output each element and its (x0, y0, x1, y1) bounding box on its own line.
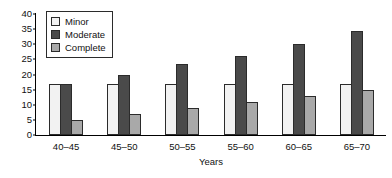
y-axis-tick-label: 15 (21, 85, 32, 95)
legend-swatch-icon (51, 43, 60, 52)
y-axis-tick-mark (33, 59, 36, 60)
x-axis-tick-label: 60–65 (286, 142, 312, 152)
y-axis-tick-label: 40 (21, 9, 32, 19)
y-axis-tick-label: 35 (21, 24, 32, 34)
x-axis-tick-label: 65–70 (344, 142, 370, 152)
y-axis-tick-mark (33, 119, 36, 120)
x-axis-tick-label: 40–45 (53, 142, 79, 152)
x-axis-tick-label: 55–60 (227, 142, 253, 152)
chart-legend: MinorModerateComplete (46, 11, 113, 58)
bar-complete (246, 102, 258, 135)
y-axis-tick-mark (33, 29, 36, 30)
y-axis-tick-mark (33, 104, 36, 105)
y-axis-tick-label: 20 (21, 70, 32, 80)
y-axis-tick-mark (33, 89, 36, 90)
legend-label: Complete (65, 43, 106, 53)
y-axis-tick-label: 10 (21, 100, 32, 110)
y-axis-tick-label: 30 (21, 40, 32, 50)
y-axis-tick-mark (33, 74, 36, 75)
bar-complete (362, 90, 374, 135)
legend-label: Moderate (65, 30, 105, 40)
y-axis-tick-mark (33, 135, 36, 136)
y-axis-tick-label: 25 (21, 55, 32, 65)
x-axis-title: Years (36, 157, 386, 167)
y-axis-tick-label: 0 (27, 130, 32, 140)
y-axis-tick-mark (33, 44, 36, 45)
bar-complete (304, 96, 316, 135)
bar-complete (187, 108, 199, 135)
bar-complete (71, 120, 83, 135)
bar-group: 55–60 (212, 14, 270, 135)
legend-swatch-icon (51, 30, 60, 39)
x-axis-line (35, 135, 386, 136)
legend-swatch-icon (51, 17, 60, 26)
legend-item: Minor (51, 15, 106, 28)
legend-label: Minor (65, 17, 89, 27)
bar-group: 50–55 (153, 14, 211, 135)
y-axis-tick-mark (33, 14, 36, 15)
x-axis-tick-label: 45–50 (111, 142, 137, 152)
x-axis-tick-label: 50–55 (169, 142, 195, 152)
bar-chart: 0510152025303540 40–4545–5050–5555–6060–… (0, 0, 392, 178)
bar-group: 60–65 (270, 14, 328, 135)
legend-item: Complete (51, 41, 106, 54)
bar-group: 65–70 (328, 14, 386, 135)
bar-complete (129, 114, 141, 135)
y-axis-tick-label: 5 (27, 115, 32, 125)
legend-item: Moderate (51, 28, 106, 41)
